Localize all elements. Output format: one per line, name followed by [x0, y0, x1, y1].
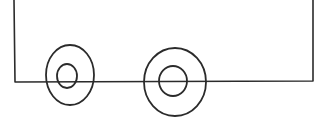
wheel-1-hub — [57, 64, 77, 88]
wheel-1-tire — [46, 45, 94, 105]
vehicle-sketch — [0, 0, 329, 130]
wheel-1 — [46, 45, 94, 105]
